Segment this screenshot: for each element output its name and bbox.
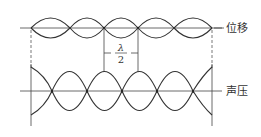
displacement-label: 位移 — [226, 21, 248, 35]
pressure-label: 声压 — [226, 84, 248, 98]
half-wavelength-annotation: λ 2 — [104, 28, 138, 72]
lambda-numerator: λ — [117, 42, 124, 53]
lambda-denominator: 2 — [118, 54, 124, 65]
standing-wave-diagram: 位移 λ 2 声压 — [0, 0, 261, 137]
